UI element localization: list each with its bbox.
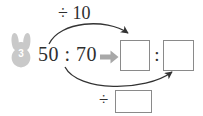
- top-operation-label: ÷ 10: [58, 3, 90, 23]
- answer-box-denominator[interactable]: [163, 40, 194, 71]
- exercise-number: 3: [6, 48, 36, 60]
- answer-box-divisor[interactable]: [115, 90, 152, 113]
- answer-box-numerator[interactable]: [120, 40, 150, 71]
- worksheet-exercise: 3 50 : 70 : ÷ 10 ÷: [0, 0, 203, 116]
- top-curved-arrow: [49, 24, 128, 44]
- bottom-operation-label: ÷: [99, 90, 108, 110]
- ratio-expression: 50 : 70: [38, 43, 97, 65]
- right-block-arrow-icon: [100, 50, 119, 64]
- rabbit-icon: 3: [6, 30, 36, 72]
- ratio-colon-separator: :: [152, 44, 162, 66]
- bottom-curved-arrow: [65, 67, 172, 86]
